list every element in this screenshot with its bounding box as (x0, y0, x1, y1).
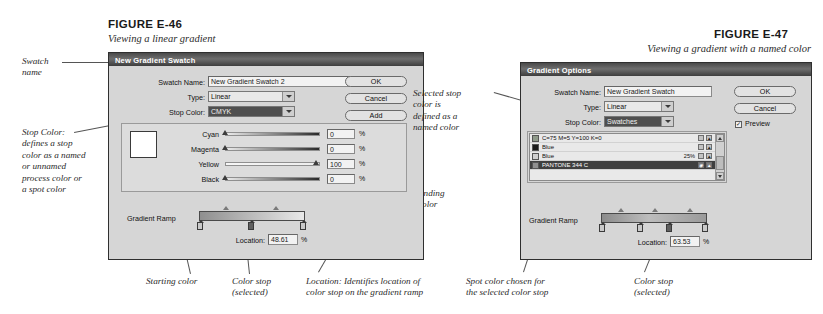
magenta-slider-thumb[interactable] (222, 145, 228, 150)
chevron-down-icon[interactable] (282, 107, 294, 116)
chevron-down-icon[interactable] (661, 117, 673, 126)
stop-color-value: CMYK (211, 108, 231, 115)
cyan-slider[interactable] (225, 132, 320, 136)
dialog-body: Swatch Name: New Gradient Swatch 2 Type:… (109, 66, 423, 259)
cancel-button[interactable]: Cancel (734, 103, 796, 114)
black-slider-thumb[interactable] (222, 175, 228, 180)
annotation-stop-color: Stop Color: defines a stop color as a na… (22, 127, 104, 195)
yellow-slider-row: Yellow 100 % (177, 159, 403, 170)
dialog-body: Swatch Name: New Gradient Swatch Type: L… (521, 76, 811, 259)
annotation-selected-stop-color: Selected stop color is defined as a name… (413, 88, 497, 134)
dialog-titlebar[interactable]: Gradient Options (521, 63, 811, 76)
cyan-input[interactable]: 0 (327, 129, 355, 139)
type-select[interactable]: Linear (208, 91, 295, 102)
annotation-color-stop-selected: Color stop (selected) (634, 276, 696, 299)
location-label: Location: (621, 238, 667, 247)
ramp-midpoint-marker[interactable] (273, 206, 279, 210)
swatch-name-label: Swatch Name: (137, 78, 205, 87)
ok-button[interactable]: OK (345, 76, 407, 87)
yellow-unit: % (359, 160, 365, 167)
type-value: Linear (211, 93, 230, 100)
magenta-input[interactable]: 0 (327, 144, 355, 154)
swatch-list-frame (527, 131, 727, 183)
swatch-name-label: Swatch Name: (531, 88, 601, 97)
location-input[interactable]: 48.61 (268, 234, 298, 245)
chevron-down-icon[interactable] (661, 102, 673, 111)
cyan-slider-thumb[interactable] (222, 130, 228, 135)
gradient-stop-selected[interactable] (248, 222, 254, 230)
black-input[interactable]: 0 (327, 174, 355, 184)
yellow-slider-thumb[interactable] (313, 160, 319, 165)
gradient-ramp-label: Gradient Ramp (127, 214, 193, 223)
stop-color-select[interactable]: Swatches (604, 116, 674, 127)
type-value: Linear (607, 103, 626, 110)
preview-label: Preview (745, 120, 770, 127)
annotation-color-stop: Color stop (selected) (232, 276, 292, 299)
type-select[interactable]: Linear (604, 101, 674, 112)
chevron-down-icon[interactable] (282, 92, 294, 101)
gradient-ramp-label: Gradient Ramp (529, 216, 595, 225)
add-button[interactable]: Add (345, 110, 407, 121)
magenta-unit: % (359, 145, 365, 152)
annotation-spot-color: Spot color chosen for the selected color… (466, 276, 584, 299)
cyan-label: Cyan (177, 130, 219, 139)
ramp-midpoint-marker[interactable] (618, 208, 624, 212)
ramp-midpoint-marker[interactable] (223, 206, 229, 210)
leader-line (62, 62, 114, 63)
ramp-midpoint-marker[interactable] (687, 208, 693, 212)
cancel-button[interactable]: Cancel (345, 93, 407, 104)
location-unit: % (703, 238, 709, 245)
annotation-starting-color: Starting color (146, 276, 216, 287)
stop-color-label: Stop Color: (527, 118, 601, 127)
black-slider[interactable] (225, 177, 320, 181)
annotation-location: Location: Identifies location of color s… (306, 276, 474, 299)
magenta-slider[interactable] (225, 147, 320, 151)
ok-button[interactable]: OK (734, 86, 796, 97)
location-label: Location: (219, 236, 265, 245)
new-gradient-swatch-dialog[interactable]: New Gradient Swatch Swatch Name: New Gra… (108, 52, 424, 260)
annotation-swatch-name: Swatch name (22, 56, 82, 79)
type-label: Type: (137, 93, 205, 102)
ramp-midpoint-marker[interactable] (652, 208, 658, 212)
swatch-name-input[interactable]: New Gradient Swatch (604, 86, 712, 97)
location-unit: % (301, 236, 307, 243)
stop-color-value: Swatches (607, 118, 637, 125)
swatch-name-input[interactable]: New Gradient Swatch 2 (208, 76, 361, 87)
gradient-stop-selected[interactable] (666, 224, 672, 232)
gradient-stop[interactable] (599, 224, 605, 232)
figure-e47-label: FIGURE E-47 (714, 28, 788, 40)
gradient-stop[interactable] (702, 224, 708, 232)
location-input[interactable]: 63.53 (670, 236, 700, 247)
cyan-unit: % (359, 130, 365, 137)
stop-color-select[interactable]: CMYK (208, 106, 295, 117)
preview-checkbox[interactable]: ✓ (735, 121, 742, 128)
figure-e47-caption: Viewing a gradient with a named color (647, 43, 811, 54)
annotation-ending-color: Ending color (418, 188, 474, 211)
color-controls-panel: Cyan 0 % Magenta 0 % Yellow 100 % (121, 123, 407, 192)
dialog-titlebar[interactable]: New Gradient Swatch (109, 53, 423, 66)
black-label: Black (177, 175, 219, 184)
stop-color-label: Stop Color: (131, 108, 205, 117)
type-label: Type: (531, 103, 601, 112)
figure-e46-caption: Viewing a linear gradient (108, 33, 215, 44)
gradient-stop[interactable] (197, 222, 203, 230)
gradient-stop[interactable] (637, 224, 643, 232)
gradient-options-dialog[interactable]: Gradient Options Swatch Name: New Gradie… (520, 62, 812, 260)
magenta-slider-row: Magenta 0 % (177, 144, 403, 155)
yellow-label: Yellow (177, 160, 219, 169)
black-slider-row: Black 0 % (177, 174, 403, 185)
gradient-ramp[interactable] (601, 213, 707, 223)
black-unit: % (359, 175, 365, 182)
yellow-slider[interactable] (225, 162, 320, 166)
yellow-input[interactable]: 100 (327, 159, 355, 169)
cyan-slider-row: Cyan 0 % (177, 129, 403, 140)
color-preview-swatch[interactable] (130, 131, 157, 158)
gradient-stop[interactable] (300, 222, 306, 230)
figure-e46-label: FIGURE E-46 (108, 18, 182, 30)
magenta-label: Magenta (177, 145, 219, 154)
